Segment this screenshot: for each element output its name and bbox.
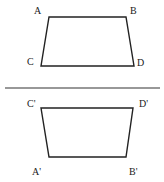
label-c-prime: C' bbox=[27, 98, 36, 109]
label-b: B bbox=[130, 5, 137, 16]
label-d: D bbox=[137, 57, 144, 68]
label-b-prime: B' bbox=[129, 166, 138, 177]
label-a: A bbox=[34, 5, 42, 16]
reflection-diagram: A B C D C' D' A' B' bbox=[0, 0, 164, 182]
label-a-prime: A' bbox=[32, 166, 41, 177]
label-c: C bbox=[27, 56, 34, 67]
trapezoid-abcd bbox=[41, 17, 134, 66]
label-d-prime: D' bbox=[139, 98, 148, 109]
trapezoid-reflected bbox=[41, 108, 133, 157]
